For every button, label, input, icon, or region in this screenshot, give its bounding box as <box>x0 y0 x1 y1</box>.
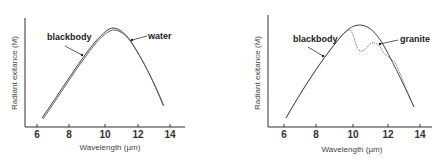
left-y-axis-label: Radiant exitance (M) <box>10 36 19 110</box>
right-tick-8: 8 <box>313 129 319 140</box>
left-water-curve <box>43 30 164 119</box>
right-tick-14: 14 <box>414 129 426 140</box>
left-water-dot <box>131 39 133 41</box>
right-granite-dot <box>379 43 381 45</box>
right-label-granite: granite <box>400 34 430 44</box>
right-y-axis-label: Radiant exitance (M) <box>253 36 262 110</box>
right-label-blackbody: blackbody <box>293 34 338 44</box>
left-chart: 6 8 10 12 14 Wavelength (µm) Radiant exi… <box>10 18 185 152</box>
left-water-leader <box>132 36 147 40</box>
right-tick-6: 6 <box>281 129 287 140</box>
left-blackbody-leader <box>65 46 82 55</box>
right-granite-leader <box>380 40 398 44</box>
left-label-blackbody: blackbody <box>47 32 92 42</box>
right-tick-10: 10 <box>347 129 359 140</box>
left-tick-10: 10 <box>99 129 111 140</box>
right-chart: 6 8 10 12 14 Wavelength (µm) Radiant exi… <box>253 15 432 154</box>
right-x-axis-label: Wavelength (µm) <box>322 145 383 154</box>
left-blackbody-dot <box>81 54 83 56</box>
left-x-axis-label: Wavelength (µm) <box>80 143 141 152</box>
left-tick-8: 8 <box>66 129 72 140</box>
figure: 6 8 10 12 14 Wavelength (µm) Radiant exi… <box>0 0 441 164</box>
right-tick-12: 12 <box>382 129 394 140</box>
right-blackbody-leader <box>308 47 323 56</box>
left-tick-6: 6 <box>34 129 40 140</box>
left-tick-14: 14 <box>164 129 176 140</box>
right-blackbody-dot <box>322 55 324 57</box>
left-tick-12: 12 <box>132 129 144 140</box>
left-label-water: water <box>147 31 172 41</box>
